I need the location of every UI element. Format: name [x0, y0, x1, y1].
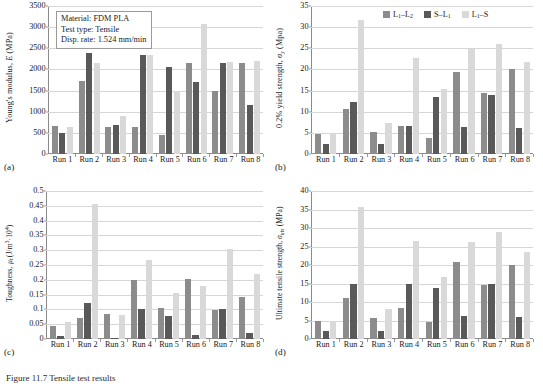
plot-area-d: 0510152025303540: [311, 191, 533, 339]
bars-group-c: [47, 191, 263, 339]
bar: [413, 58, 419, 154]
bar: [426, 138, 432, 154]
y-tick-label: 0.4: [33, 216, 46, 224]
y-tick-label: 0.35: [29, 231, 46, 239]
bar: [461, 316, 467, 339]
bar: [84, 303, 90, 339]
y-tick-label: 15: [300, 279, 311, 287]
chart-legend: L1–L2S–L1L1–S: [383, 10, 488, 19]
x-axis-tick-label: Run 2: [74, 340, 101, 349]
bar: [159, 135, 165, 154]
y-tick-label: 25: [300, 44, 311, 52]
bar: [398, 126, 404, 154]
x-axis-tick-label: Run 4: [128, 340, 155, 349]
x-axis-tick-label: Run 8: [506, 340, 534, 349]
chart-panel-ultimate-tensile-strength: Ultimate tensile strength, σuts (MPa) 05…: [271, 187, 542, 371]
bar-group: [236, 6, 263, 154]
legend-item-L1-S[interactable]: L1–S: [462, 10, 489, 19]
y-tick-label: 3000: [29, 23, 48, 31]
bar: [239, 297, 245, 339]
bar: [385, 309, 391, 339]
y-tick-label: 30: [300, 23, 311, 31]
bar: [212, 310, 218, 339]
bar-group: [478, 191, 506, 339]
y-tick-label: 2000: [29, 65, 48, 73]
bar-group: [423, 191, 451, 339]
bar: [138, 309, 144, 339]
x-axis-tick-label: Run 5: [156, 340, 183, 349]
bar-group: [450, 6, 478, 154]
x-axis-tick-label: Run 7: [479, 340, 507, 349]
plot-area-b: 05101520253035 L1–L2S–L1L1–S: [311, 6, 533, 154]
bars-group-b: [312, 6, 533, 154]
x-axis-tick-label: Run 2: [76, 155, 103, 164]
bar-group: [236, 191, 263, 339]
info-line-1: Test type: Tensile: [61, 25, 147, 36]
x-axis-tick-label: Run 7: [210, 155, 237, 164]
x-axis-tick-label: Run 3: [368, 155, 396, 164]
bar: [453, 262, 459, 339]
bar: [254, 274, 260, 339]
bar: [398, 308, 404, 339]
plot-area-c: 00.050.10.150.20.250.30.350.40.450.5: [46, 191, 263, 339]
bar: [200, 286, 206, 339]
x-axis-tick-label: Run 1: [312, 340, 340, 349]
y-axis-label-b: 0.2% yield strength, σy (Mpa): [273, 2, 287, 154]
legend-swatch-icon: [424, 11, 431, 18]
bar: [509, 265, 515, 339]
x-axis-tick-label: Run 7: [479, 155, 507, 164]
legend-label: L1–S: [472, 10, 489, 19]
legend-label: S–L1: [434, 10, 451, 19]
bar-group: [182, 191, 209, 339]
bar-group: [128, 191, 155, 339]
y-tick-label: 0.1: [33, 305, 46, 313]
bar: [358, 20, 364, 154]
x-axis-labels-a: Run 1Run 2Run 3Run 4Run 5Run 6Run 7Run 8: [49, 155, 264, 164]
x-axis-tick-label: Run 8: [237, 155, 264, 164]
bar: [94, 63, 100, 154]
bar: [433, 288, 439, 339]
bar: [119, 315, 125, 339]
y-tick-label: 5: [304, 316, 311, 324]
figure-container: Young's modulus, E (MPa) 050010001500200…: [0, 0, 543, 386]
bar: [77, 318, 83, 339]
bar: [165, 316, 171, 339]
legend-swatch-icon: [383, 11, 390, 18]
y-tick-label: 15: [300, 86, 311, 94]
x-axis-tick-label: Run 4: [130, 155, 157, 164]
bar-group: [478, 6, 506, 154]
bar: [406, 284, 412, 339]
bar: [406, 126, 412, 154]
bar: [468, 242, 474, 339]
bar: [201, 24, 207, 154]
x-axis-tick-label: Run 1: [49, 155, 76, 164]
bar-group: [395, 6, 423, 154]
bar: [524, 62, 530, 154]
bar: [146, 260, 152, 339]
bar: [239, 63, 245, 154]
x-axis-tick-label: Run 1: [312, 155, 340, 164]
y-tick-label: 500: [33, 129, 48, 137]
y-tick-label: 35: [300, 205, 311, 213]
bar: [147, 55, 153, 154]
bar: [433, 97, 439, 154]
y-tick-label: 25: [300, 242, 311, 250]
bar: [358, 207, 364, 339]
y-axis-label-d: Ultimate tensile strength, σuts (MPa): [273, 187, 287, 339]
bar-group: [74, 191, 101, 339]
bar: [65, 322, 71, 339]
y-tick-label: 3500: [29, 2, 48, 10]
legend-item-S-L1[interactable]: S–L1: [424, 10, 451, 19]
bar: [496, 232, 502, 339]
x-axis-tick-label: Run 3: [103, 155, 130, 164]
bar: [131, 280, 137, 339]
figure-caption: Figure 11.7 Tensile test results: [6, 373, 543, 385]
bar: [220, 63, 226, 154]
x-axis-tick-label: Run 7: [210, 340, 237, 349]
bar-group: [47, 191, 74, 339]
bar-group: [340, 6, 368, 154]
info-line-2: Disp. rate: 1.524 mm/min: [61, 35, 147, 46]
legend-item-L1-L2[interactable]: L1–L2: [383, 10, 413, 19]
bar: [516, 317, 522, 339]
bar: [50, 326, 56, 339]
